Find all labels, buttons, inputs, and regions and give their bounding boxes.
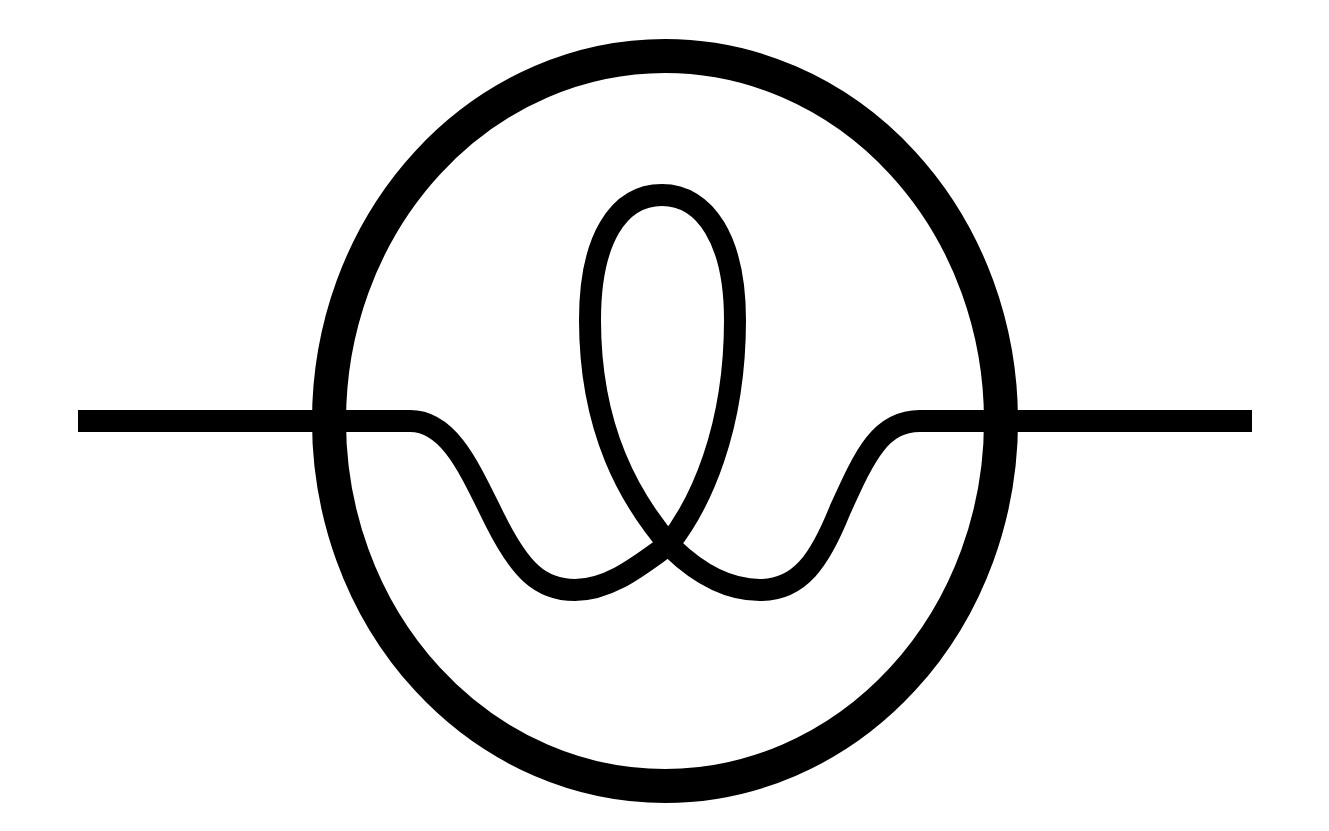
- diagram-canvas: [0, 0, 1329, 831]
- symbol-svg: [0, 0, 1329, 831]
- loop-wave-line: [78, 195, 1252, 590]
